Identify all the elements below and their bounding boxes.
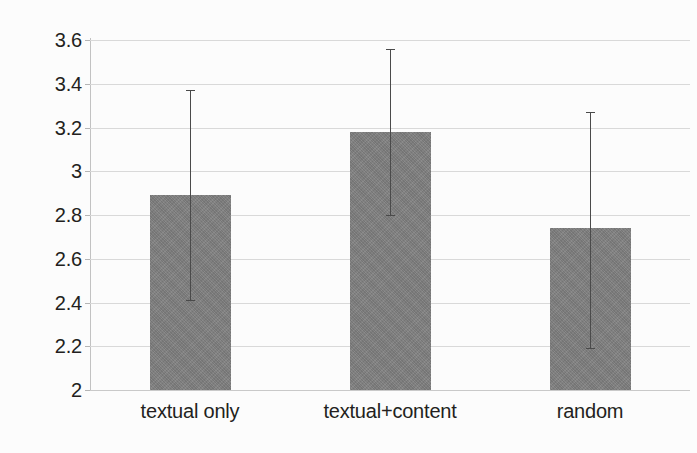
y-tick-label: 2.4	[24, 293, 82, 313]
error-bar-stem	[590, 112, 591, 348]
error-bar-stem	[190, 90, 191, 300]
error-bar-cap-lower	[386, 215, 395, 216]
y-tick-mark	[85, 84, 90, 85]
y-tick-label: 3.2	[24, 118, 82, 138]
y-tick-label: 3	[24, 161, 82, 181]
error-bar-stem	[390, 49, 391, 215]
y-tick-mark	[85, 303, 90, 304]
y-tick-label: 3.6	[24, 30, 82, 50]
y-tick-mark	[85, 390, 90, 391]
plot-area	[90, 40, 690, 390]
y-tick-mark	[85, 215, 90, 216]
error-bar-cap-upper	[186, 90, 195, 91]
gridline	[90, 40, 690, 41]
y-axis-tick-labels: 3.6 3.4 3.2 3 2.8 2.6 2.4 2.2 2	[16, 0, 82, 453]
y-tick-label: 3.4	[24, 74, 82, 94]
y-tick-label: 2	[24, 380, 82, 400]
x-tick-label-textual-only: textual only	[90, 399, 290, 423]
error-bar-cap-upper	[586, 112, 595, 113]
y-tick-mark	[85, 128, 90, 129]
y-tick-mark	[85, 40, 90, 41]
x-tick-label-textual-content: textual+content	[290, 399, 490, 423]
y-tick-mark	[85, 171, 90, 172]
y-tick-label: 2.8	[24, 205, 82, 225]
y-tick-label: 2.6	[24, 249, 82, 269]
error-bar-cap-lower	[586, 348, 595, 349]
error-bar-cap-lower	[186, 300, 195, 301]
x-tick-label-random: random	[490, 399, 690, 423]
y-tick-mark	[85, 346, 90, 347]
y-tick-mark	[85, 259, 90, 260]
bar-chart: 3.6 3.4 3.2 3 2.8 2.6 2.4 2.2 2 textual …	[0, 0, 697, 453]
error-bar-cap-upper	[386, 49, 395, 50]
gridline	[90, 390, 690, 391]
y-tick-label: 2.2	[24, 336, 82, 356]
